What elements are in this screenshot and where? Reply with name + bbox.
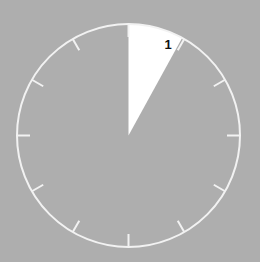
slice-label-group: 1 xyxy=(164,37,171,52)
pie-slice-label: 1 xyxy=(164,37,171,52)
clock-pie-widget: 1 xyxy=(0,0,260,262)
clock-dial-svg: 1 xyxy=(0,0,260,262)
